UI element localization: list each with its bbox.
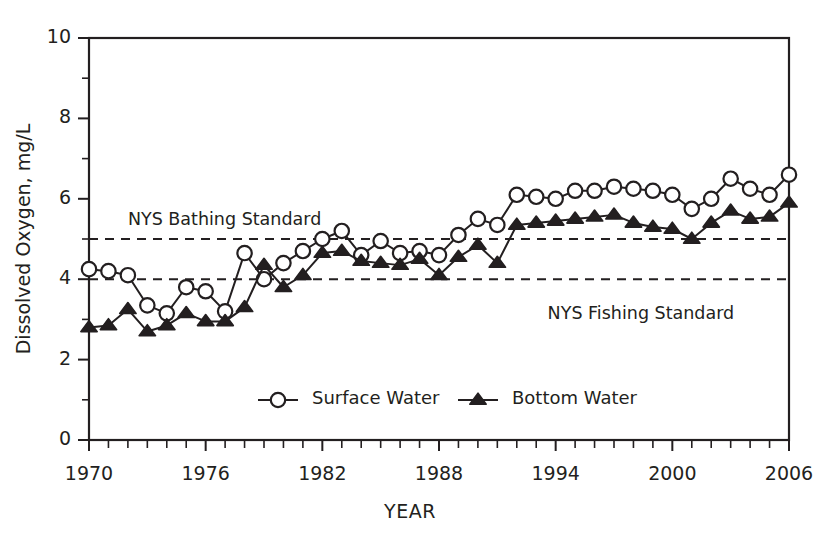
x-axis-tick-label: 1970 <box>49 462 129 484</box>
data-point-bottom-water <box>334 244 350 255</box>
series-line-surface-water <box>89 175 789 314</box>
data-point-surface-water <box>140 298 154 312</box>
y-axis-tick-label: 6 <box>0 186 71 208</box>
data-point-surface-water <box>587 184 601 198</box>
legend-label-surface-water: Surface Water <box>312 387 440 408</box>
data-point-surface-water <box>685 202 699 216</box>
legend-marker-surface-water <box>271 393 285 407</box>
data-point-surface-water <box>548 192 562 206</box>
data-point-surface-water <box>335 224 349 238</box>
y-axis-tick-label: 10 <box>0 25 71 47</box>
data-point-bottom-water <box>606 208 622 219</box>
x-axis-tick-label: 1988 <box>399 462 479 484</box>
x-axis-tick-label: 1982 <box>282 462 362 484</box>
data-point-surface-water <box>373 234 387 248</box>
data-point-bottom-water <box>470 238 486 249</box>
data-point-surface-water <box>296 244 310 258</box>
data-point-surface-water <box>782 167 796 181</box>
data-point-surface-water <box>723 172 737 186</box>
data-point-surface-water <box>101 264 115 278</box>
data-point-surface-water <box>237 246 251 260</box>
data-point-surface-water <box>179 280 193 294</box>
data-point-bottom-water <box>159 319 175 330</box>
data-point-surface-water <box>198 284 212 298</box>
data-point-surface-water <box>82 262 96 276</box>
x-axis-tick-label: 1976 <box>166 462 246 484</box>
data-point-surface-water <box>315 232 329 246</box>
y-axis-title: Dissolved Oxygen, mg/L <box>12 124 34 355</box>
x-axis-title: YEAR <box>0 500 820 522</box>
data-point-bottom-water <box>178 307 194 318</box>
data-point-bottom-water <box>722 204 738 215</box>
data-point-surface-water <box>626 182 640 196</box>
data-point-surface-water <box>762 188 776 202</box>
y-axis-tick-label: 2 <box>0 347 71 369</box>
data-point-bottom-water <box>450 250 466 261</box>
data-point-surface-water <box>743 182 757 196</box>
data-point-bottom-water <box>703 216 719 227</box>
data-point-surface-water <box>646 184 660 198</box>
data-point-surface-water <box>451 228 465 242</box>
data-point-surface-water <box>607 180 621 194</box>
data-point-surface-water <box>529 190 543 204</box>
data-point-bottom-water <box>781 196 797 207</box>
legend-label-bottom-water: Bottom Water <box>512 387 637 408</box>
data-point-surface-water <box>121 268 135 282</box>
data-point-bottom-water <box>256 258 272 269</box>
y-axis-tick-label: 0 <box>0 427 71 449</box>
annotation-nys-fishing-standard: NYS Fishing Standard <box>548 303 735 323</box>
data-point-surface-water <box>510 188 524 202</box>
x-axis-tick-label: 2000 <box>632 462 712 484</box>
data-point-surface-water <box>432 248 446 262</box>
x-axis-tick-label: 2006 <box>749 462 820 484</box>
data-point-surface-water <box>490 218 504 232</box>
data-point-surface-water <box>704 192 718 206</box>
y-axis-tick-label: 4 <box>0 266 71 288</box>
data-point-surface-water <box>568 184 582 198</box>
data-point-surface-water <box>471 212 485 226</box>
annotation-nys-bathing-standard: NYS Bathing Standard <box>128 209 321 229</box>
data-point-bottom-water <box>120 303 136 314</box>
x-axis-tick-label: 1994 <box>516 462 596 484</box>
data-point-surface-water <box>665 188 679 202</box>
chart-figure: 02468101970197619821988199420002006YEARD… <box>0 0 820 555</box>
y-axis-tick-label: 8 <box>0 105 71 127</box>
data-point-surface-water <box>276 256 290 270</box>
legend-marker-bottom-water <box>470 393 486 404</box>
data-point-bottom-water <box>236 301 252 312</box>
